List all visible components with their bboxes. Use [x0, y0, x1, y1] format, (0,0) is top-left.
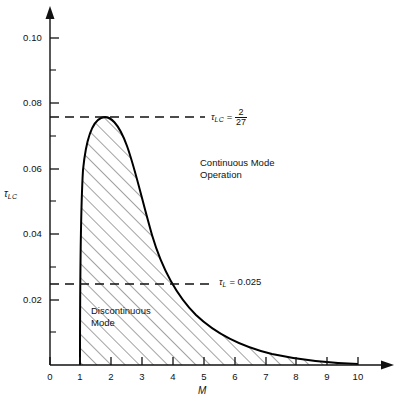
- label-discontinuous-mode: Discontinuous Mode: [91, 305, 151, 329]
- y-tick-label-008: 0.08: [8, 97, 42, 108]
- y-axis-title: τLC: [4, 188, 17, 200]
- y-axis-minor-ticks: [50, 70, 56, 332]
- y-tick-label-004: 0.04: [8, 228, 42, 239]
- x-tick-label-0: 0: [44, 371, 56, 382]
- x-tick-label-3: 3: [136, 371, 148, 382]
- annotation-tau-lc-fraction: 2 27: [235, 108, 247, 127]
- y-axis-major-ticks: [50, 38, 59, 300]
- label-continuous-mode-line1: Continuous Mode: [200, 157, 274, 169]
- fraction-denominator: 27: [235, 118, 247, 127]
- annotation-tau-l: τL = 0.025: [219, 276, 261, 288]
- y-tick-label-002: 0.02: [8, 294, 42, 305]
- y-tick-label-010: 0.10: [8, 32, 42, 43]
- x-tick-label-8: 8: [290, 371, 302, 382]
- x-axis-title: M: [198, 385, 206, 396]
- y-axis-title-subscript: LC: [8, 193, 18, 200]
- chart-canvas: [0, 0, 404, 402]
- label-continuous-mode: Continuous Mode Operation: [200, 157, 274, 181]
- x-tick-label-1: 1: [74, 371, 86, 382]
- annotation-tau-lc-equals: =: [227, 111, 233, 122]
- x-tick-label-4: 4: [167, 371, 179, 382]
- annotation-tau-l-value: = 0.025: [229, 276, 261, 287]
- x-tick-label-6: 6: [229, 371, 241, 382]
- x-tick-label-10: 10: [349, 371, 367, 382]
- x-tick-label-7: 7: [260, 371, 272, 382]
- label-continuous-mode-line2: Operation: [200, 169, 274, 181]
- label-discontinuous-mode-line1: Discontinuous: [91, 305, 151, 317]
- x-axis-arrow: [381, 361, 394, 370]
- annotation-tau-l-subscript: L: [223, 281, 227, 288]
- chart-figure: 0.10 0.08 0.06 0.04 0.02 τLC 0 1 2 3 4 5…: [0, 0, 404, 402]
- x-tick-label-2: 2: [105, 371, 117, 382]
- x-tick-label-5: 5: [198, 371, 210, 382]
- annotation-tau-lc-subscript: LC: [215, 116, 225, 123]
- y-axis-arrow: [46, 6, 55, 19]
- label-discontinuous-mode-line2: Mode: [91, 317, 151, 329]
- y-tick-label-006: 0.06: [8, 163, 42, 174]
- x-tick-label-9: 9: [321, 371, 333, 382]
- annotation-tau-lc-max: τLC = 2 27: [211, 108, 247, 127]
